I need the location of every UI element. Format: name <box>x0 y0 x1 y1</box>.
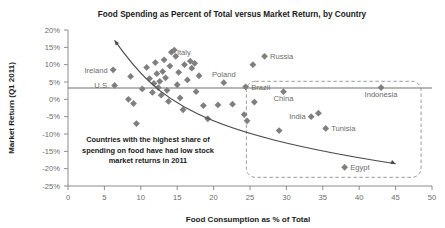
x-tick-label: 0 <box>66 193 70 202</box>
chart-title: Food Spending as Percent of Total versus… <box>98 10 367 19</box>
x-tick-label: 20 <box>209 193 217 202</box>
data-point-label: Tunisia <box>331 124 356 133</box>
x-axis-title: Food Consumption as % of Total <box>186 215 310 224</box>
y-tick-label: -10% <box>42 130 60 139</box>
x-tick-label: 45 <box>391 193 399 202</box>
data-point-label: Ireland <box>84 66 107 75</box>
y-tick-label: 10% <box>45 60 60 69</box>
y-tick-label: -20% <box>42 164 60 173</box>
y-axis-title: Market Return (Q1 2011) <box>7 62 16 154</box>
annotation-line: market returns in 2011 <box>109 156 187 165</box>
y-tick-label: 20% <box>45 26 60 35</box>
data-point-label: Brazil <box>251 83 270 92</box>
scatter-chart: Food Spending as Percent of Total versus… <box>0 0 445 228</box>
y-tick-label: 5% <box>49 78 60 87</box>
data-point-label: Italy <box>177 48 191 57</box>
x-tick-label: 40 <box>355 193 363 202</box>
chart-canvas: Food Spending as Percent of Total versus… <box>0 0 445 228</box>
x-tick-label: 5 <box>102 193 106 202</box>
data-point-label: Poland <box>212 70 236 79</box>
y-tick-label: -5% <box>46 112 60 121</box>
y-tick-label: 0% <box>49 95 60 104</box>
data-point-label: India <box>289 112 306 121</box>
x-tick-label: 15 <box>173 193 181 202</box>
data-point-label: China <box>274 94 295 103</box>
annotation-line: Countries with the highest share of <box>86 135 210 144</box>
data-point-label: Russia <box>270 52 294 61</box>
y-tick-label: -15% <box>42 147 60 156</box>
x-tick-label: 10 <box>137 193 145 202</box>
data-point-label: U.S. <box>94 81 109 90</box>
x-tick-label: 50 <box>428 193 436 202</box>
x-tick-label: 30 <box>282 193 290 202</box>
annotation-line: spending on food have had low stock <box>82 146 215 155</box>
y-tick-label: 15% <box>45 43 60 52</box>
x-tick-label: 35 <box>319 193 327 202</box>
data-point-label: Indonesia <box>365 90 399 99</box>
x-tick-label: 25 <box>246 193 254 202</box>
y-tick-label: -25% <box>42 182 60 191</box>
data-point-label: Egypt <box>350 163 370 172</box>
